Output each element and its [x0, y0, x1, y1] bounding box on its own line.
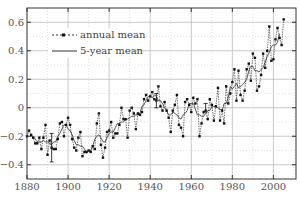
data-point: [157, 85, 159, 87]
data-point: [135, 128, 137, 130]
data-point: [182, 135, 184, 137]
data-point: [174, 104, 176, 106]
data-point: [235, 99, 237, 101]
data-point: [108, 129, 110, 131]
data-point: [81, 155, 83, 157]
data-point: [69, 124, 71, 126]
data-point: [124, 118, 126, 120]
data-point: [38, 136, 40, 138]
data-point: [104, 146, 106, 148]
x-tick-label: 1880: [14, 181, 39, 192]
data-point: [151, 91, 153, 93]
data-point: [250, 79, 252, 81]
data-point: [36, 142, 38, 144]
data-point: [221, 109, 223, 111]
y-tick-label: 0: [18, 102, 24, 113]
data-point: [225, 85, 227, 87]
legend-label-5yr: 5-year mean: [80, 45, 144, 56]
data-point: [100, 144, 102, 146]
data-point: [120, 107, 122, 109]
data-point: [143, 98, 145, 100]
data-point: [28, 129, 30, 131]
data-point: [63, 135, 65, 137]
data-point: [215, 105, 217, 107]
data-point: [137, 112, 139, 114]
data-point: [153, 98, 155, 100]
data-point: [167, 117, 169, 119]
data-point: [213, 119, 215, 121]
data-point: [192, 97, 194, 99]
data-point: [280, 44, 282, 46]
data-point: [258, 85, 260, 87]
data-point: [87, 149, 89, 151]
data-point: [57, 138, 59, 140]
data-point: [170, 131, 172, 133]
data-point: [131, 107, 133, 109]
data-point: [184, 101, 186, 103]
data-point: [248, 62, 250, 64]
data-point: [194, 102, 196, 104]
data-point: [46, 154, 48, 156]
data-point: [73, 146, 75, 148]
data-point: [241, 99, 243, 101]
data-point: [237, 70, 239, 72]
y-tick-label: 0.4: [8, 45, 24, 56]
data-point: [172, 109, 174, 111]
data-point: [260, 74, 262, 76]
data-point: [256, 89, 258, 91]
data-point: [96, 122, 98, 124]
data-point: [159, 105, 161, 107]
data-point: [44, 124, 46, 126]
data-point: [79, 131, 81, 133]
data-point: [116, 132, 118, 134]
data-point: [59, 122, 61, 124]
data-point: [186, 98, 188, 100]
data-point: [278, 37, 280, 39]
data-point: [196, 98, 198, 100]
data-point: [227, 102, 229, 104]
data-point: [243, 89, 245, 91]
data-point: [262, 52, 264, 54]
figure-caption-fragment: [4, 193, 8, 201]
data-point: [128, 109, 130, 111]
y-tick-label: −0.2: [0, 131, 24, 142]
data-point: [85, 151, 87, 153]
x-tick-label: 1940: [137, 181, 162, 192]
data-point: [264, 67, 266, 69]
data-point: [282, 18, 284, 20]
data-point: [118, 124, 120, 126]
data-point: [141, 111, 143, 113]
x-tick-label: 1960: [179, 181, 204, 192]
data-point: [176, 94, 178, 96]
data-point: [32, 136, 34, 138]
y-tick-label: 0.6: [8, 17, 24, 28]
legend: annual mean 5-year mean: [48, 28, 146, 58]
data-point: [246, 68, 248, 70]
data-point: [211, 104, 213, 106]
data-point: [223, 122, 225, 124]
data-point: [40, 148, 42, 150]
data-point: [145, 94, 147, 96]
data-point: [30, 134, 32, 136]
x-tick-label: 1900: [55, 181, 80, 192]
data-point: [94, 148, 96, 150]
data-point: [83, 151, 85, 153]
data-point: [147, 99, 149, 101]
data-point: [106, 131, 108, 133]
legend-label-annual: annual mean: [80, 29, 146, 40]
data-point: [268, 25, 270, 27]
y-tick-label: 0.2: [8, 74, 24, 85]
data-point: [48, 139, 50, 141]
data-point: [98, 112, 100, 114]
data-point: [149, 95, 151, 97]
data-point: [190, 111, 192, 113]
data-point: [252, 52, 254, 54]
data-point: [112, 136, 114, 138]
data-point: [89, 151, 91, 153]
data-point: [61, 121, 63, 123]
data-point: [229, 92, 231, 94]
data-point: [163, 101, 165, 103]
data-point: [207, 118, 209, 120]
x-tick-label: 1980: [220, 181, 245, 192]
data-point: [200, 122, 202, 124]
